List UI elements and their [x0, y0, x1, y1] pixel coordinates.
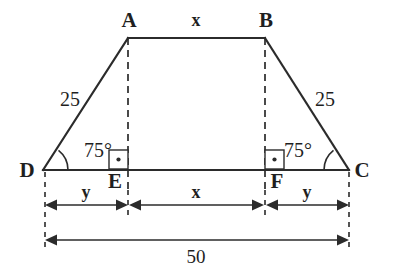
right-angle-dot-e [116, 157, 120, 161]
vertex-label-b: B [259, 8, 273, 32]
top-side-length-label: x [192, 10, 201, 30]
vertex-label-d: D [19, 158, 34, 182]
height-lines [128, 38, 265, 190]
arrowhead-dc-right [337, 235, 349, 246]
angle-arc-c [324, 150, 334, 170]
right-angle-dot-f [272, 157, 276, 161]
geometry-diagram: A B C D E F x 25 25 75° 75° y x y 50 [0, 0, 395, 275]
angle-label-d: 75° [84, 139, 112, 161]
angle-label-c: 75° [284, 139, 312, 161]
arrowhead-fc-right [337, 200, 349, 211]
arrowhead-dc-left [45, 235, 57, 246]
arrowhead-ef-left [129, 200, 141, 211]
dimension-row-total [45, 235, 349, 246]
vertex-label-c: C [354, 158, 369, 182]
vertex-label-f: F [271, 169, 284, 193]
dim-label-ef: x [192, 182, 201, 202]
arrowhead-de-right [116, 200, 128, 211]
vertex-label-e: E [108, 169, 122, 193]
left-leg-length-label: 25 [60, 88, 80, 110]
arrowhead-de-left [45, 200, 57, 211]
arrowhead-fc-left [266, 200, 278, 211]
dim-label-de: y [82, 182, 91, 202]
right-angle-mark-f [265, 150, 284, 169]
trapezoid-figure-svg: A B C D E F x 25 25 75° 75° y x y 50 [0, 0, 395, 275]
dim-label-dc-total: 50 [187, 246, 206, 267]
angle-arc-d [59, 150, 69, 170]
arrowhead-ef-right [252, 200, 264, 211]
vertex-label-a: A [121, 8, 137, 32]
dim-label-fc: y [303, 182, 312, 202]
right-leg-length-label: 25 [315, 88, 335, 110]
